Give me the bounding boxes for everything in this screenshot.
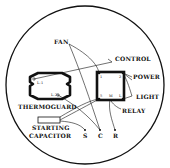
control-label: CONTROL <box>115 55 151 62</box>
relay-terminal-2: 2 <box>119 75 121 79</box>
relay-terminal-1: 1 <box>100 75 102 79</box>
diagram-lines <box>0 0 170 168</box>
relay-terminal-5: 5 <box>100 94 102 98</box>
terminal-s-label: S <box>83 132 88 139</box>
fan-label: FAN <box>54 38 69 45</box>
thermo-l2-label: L-2 <box>51 93 57 97</box>
relay-terminal-m: M <box>109 94 113 98</box>
capacitor-label: CAPACITOR <box>29 132 71 139</box>
terminal-c-label: C <box>98 132 103 139</box>
thermo-l1-label: L-1 <box>37 81 43 85</box>
starting-label: STARTING <box>32 124 70 131</box>
terminal-r-label: R <box>113 132 118 139</box>
relay-label: RELAY <box>122 107 145 114</box>
power-label: POWER <box>133 73 160 80</box>
relay-terminal-l: L <box>119 94 122 98</box>
wiring-diagram: FAN CONTROL POWER LIGHT RELAY THERMOGUAR… <box>0 0 170 168</box>
light-label: LIGHT <box>136 93 159 100</box>
thermoguard-label: THERMOGUARD <box>18 103 77 110</box>
